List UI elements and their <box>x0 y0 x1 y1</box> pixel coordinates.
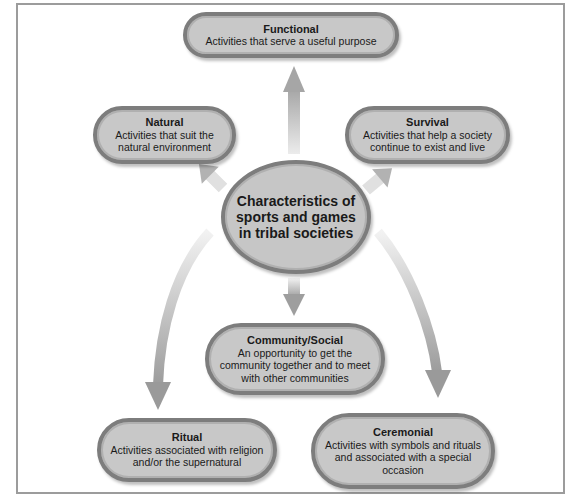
node-survival: Survival Activities that help a society … <box>345 106 510 164</box>
node-title: Ceremonial <box>373 426 433 439</box>
node-description: Activities associated with religion and/… <box>109 444 265 469</box>
node-title: Natural <box>146 116 184 129</box>
node-title: Functional <box>263 23 319 36</box>
node-ceremonial: Ceremonial Activities with symbols and r… <box>311 413 495 489</box>
node-ritual: Ritual Activities associated with religi… <box>97 418 277 482</box>
node-functional: Functional Activities that serve a usefu… <box>183 12 399 58</box>
arrow-curved-ceremonial-icon <box>378 232 451 398</box>
center-label: Characteristics of sports and games in t… <box>235 193 357 241</box>
node-title: Ritual <box>172 431 203 444</box>
node-description: An opportunity to get the community toge… <box>217 347 373 385</box>
center-topic: Characteristics of sports and games in t… <box>221 160 371 274</box>
node-natural: Natural Activities that suit the natural… <box>93 106 236 164</box>
node-description: Activities that serve a useful purpose <box>205 35 376 48</box>
node-description: Activities that help a society continue … <box>357 129 498 154</box>
arrow-down-community-icon <box>283 278 305 316</box>
arrow-curved-ritual-icon <box>145 232 210 410</box>
node-description: Activities that suit the natural environ… <box>105 129 224 154</box>
node-community-social: Community/Social An opportunity to get t… <box>205 323 385 395</box>
node-description: Activities with symbols and rituals and … <box>323 439 483 477</box>
arrow-up-functional-icon <box>283 66 305 154</box>
node-title: Community/Social <box>247 334 343 347</box>
node-title: Survival <box>406 116 449 129</box>
